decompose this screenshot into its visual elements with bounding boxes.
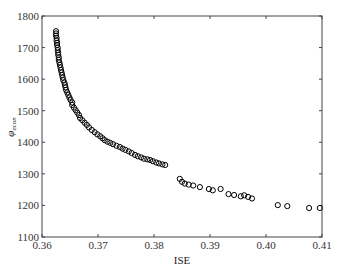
x-tick-label: 0.38 [144, 239, 164, 251]
x-tick-label: 0.40 [256, 239, 276, 251]
y-tick-label: 1200 [17, 199, 40, 211]
x-tick-label: 0.39 [200, 239, 220, 251]
x-tick-label: 0.41 [312, 239, 331, 251]
svg-text:φecon: φecon [4, 117, 18, 137]
y-axis-label: φecon [4, 117, 18, 137]
y-tick-label: 1800 [17, 10, 40, 22]
y-tick-label: 1400 [17, 136, 40, 148]
x-tick-label: 0.37 [88, 239, 108, 251]
y-tick-label: 1500 [17, 105, 40, 117]
x-axis-label: ISE [174, 254, 191, 266]
y-tick-label: 1700 [17, 42, 40, 54]
scatter-chart: 11001200130014001500160017001800 0.360.3… [0, 0, 339, 267]
y-tick-label: 1600 [17, 73, 40, 85]
y-tick-label: 1300 [17, 168, 40, 180]
x-tick-label: 0.36 [32, 239, 52, 251]
